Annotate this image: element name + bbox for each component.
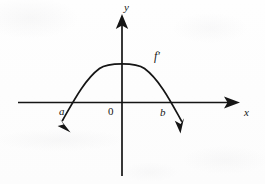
figure-canvas: y x 0 a b f′ bbox=[0, 0, 265, 184]
curve-label-f-prime: f′ bbox=[154, 50, 160, 62]
left-root-label-a: a bbox=[59, 106, 65, 117]
right-branch-arrowhead bbox=[175, 118, 184, 133]
coordinate-plot bbox=[0, 0, 265, 184]
y-axis-label: y bbox=[124, 2, 129, 13]
x-axis-label: x bbox=[244, 107, 249, 118]
left-branch-arrowhead bbox=[58, 119, 71, 133]
origin-label: 0 bbox=[108, 106, 114, 117]
right-root-label-b: b bbox=[160, 107, 166, 118]
